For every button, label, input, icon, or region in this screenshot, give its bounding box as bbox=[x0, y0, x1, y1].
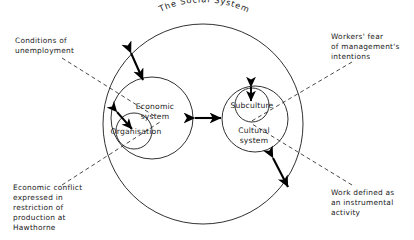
diagram-title: The Social System bbox=[156, 0, 251, 15]
annotation-work-defined-line2: an instrumental bbox=[331, 198, 393, 207]
annotation-economic-conflict-line2: expressed in bbox=[13, 193, 63, 202]
annotation-economic-conflict-line5: Hawthorne bbox=[13, 223, 56, 232]
leader-line-work-defined bbox=[252, 124, 352, 185]
cultural-system-label-line1: Cultural bbox=[238, 126, 270, 135]
annotation-economic-conflict: Economic conflict expressed in restricti… bbox=[13, 183, 82, 232]
social-system-boundary bbox=[103, 24, 303, 224]
leader-line-unemployment bbox=[62, 58, 156, 117]
annotation-workers-fear-line3: intentions bbox=[331, 52, 370, 61]
annotation-economic-conflict-line1: Economic conflict bbox=[13, 183, 82, 192]
annotation-workers-fear-line2: of management's bbox=[331, 42, 400, 51]
social-system-diagram: The Social System Economic system Organi… bbox=[0, 0, 414, 240]
annotation-work-defined-line3: activity bbox=[331, 208, 361, 217]
diagram-title-text: The Social System bbox=[156, 0, 251, 15]
cultural-system-label-line2: system bbox=[240, 136, 269, 145]
annotation-conditions-line2: unemployment bbox=[15, 46, 74, 55]
annotation-work-defined-line1: Work defined as bbox=[331, 188, 394, 197]
arrow-unemployment-to-economic bbox=[131, 53, 143, 80]
annotation-workers-fear: Workers' fear of management's intentions bbox=[331, 32, 400, 61]
economic-system-label-line1: Economic bbox=[136, 102, 174, 111]
annotation-conditions-of-unemployment: Conditions of unemployment bbox=[15, 36, 74, 55]
diagram-canvas: The Social System Economic system Organi… bbox=[0, 0, 414, 240]
leader-line-workers-fear bbox=[250, 62, 352, 122]
arrow-cultural-to-social-boundary bbox=[273, 158, 288, 187]
annotation-economic-conflict-line3: restriction of bbox=[13, 203, 64, 212]
annotation-workers-fear-line1: Workers' fear bbox=[331, 32, 384, 41]
organisation-label: Organisation bbox=[111, 127, 162, 136]
subculture-label: Subculture bbox=[231, 101, 274, 110]
annotation-conditions-line1: Conditions of bbox=[15, 36, 67, 45]
annotation-work-defined: Work defined as an instrumental activity bbox=[331, 188, 394, 217]
annotation-economic-conflict-line4: production at bbox=[13, 213, 66, 222]
